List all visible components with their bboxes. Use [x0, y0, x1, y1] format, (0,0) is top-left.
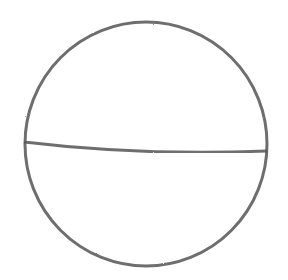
circle-outline: [25, 22, 267, 266]
sketch-canvas: [0, 0, 288, 280]
horizontal-chord: [24, 142, 267, 152]
